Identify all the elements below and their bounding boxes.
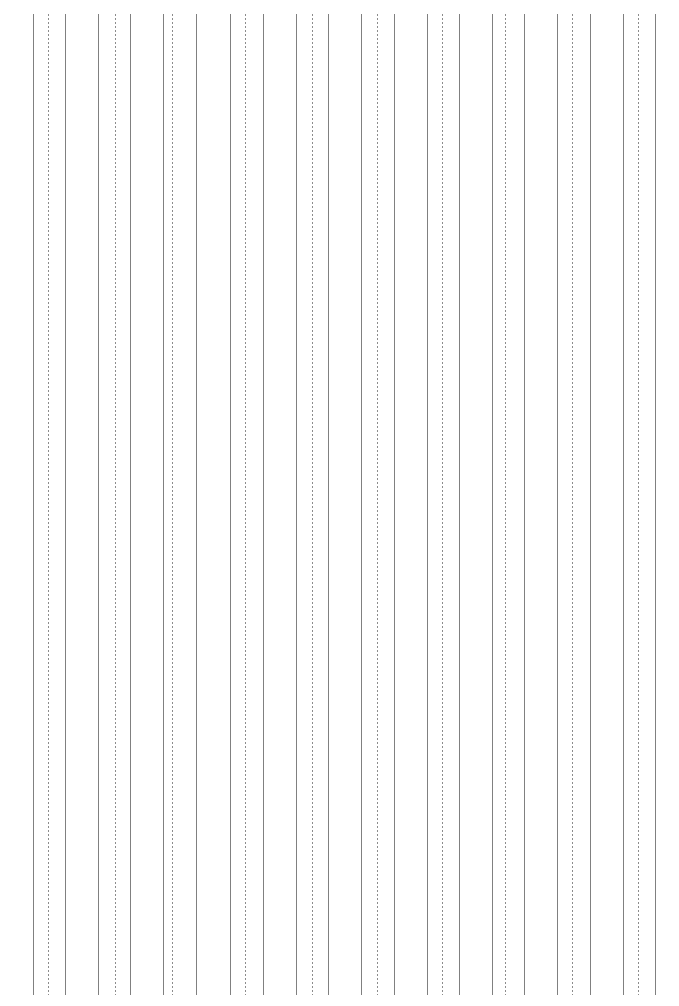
vertical-rule-solid-13 [296,14,297,995]
vertical-rule-dotted-29 [638,14,639,995]
page-canvas [0,0,679,1006]
vertical-rule-solid-6 [130,14,131,995]
vertical-rule-solid-9 [196,14,197,995]
vertical-rule-dotted-20 [442,14,443,995]
vertical-rule-solid-22 [492,14,493,995]
vertical-rule-solid-30 [655,14,656,995]
vertical-rule-dotted-23 [505,14,506,995]
vertical-rule-solid-12 [263,14,264,995]
vertical-rule-solid-21 [459,14,460,995]
vertical-rule-solid-16 [361,14,362,995]
vertical-rule-dotted-17 [377,14,378,995]
vertical-rule-dotted-8 [172,14,173,995]
vertical-rule-solid-4 [98,14,99,995]
vertical-rule-solid-3 [65,14,66,995]
vertical-rule-solid-10 [230,14,231,995]
vertical-rule-solid-19 [427,14,428,995]
vertical-rule-dotted-11 [245,14,246,995]
vertical-rule-dotted-5 [115,14,116,995]
vertical-rule-solid-1 [33,14,34,995]
vertical-rule-solid-27 [590,14,591,995]
vertical-rule-dotted-2 [48,14,49,995]
vertical-rule-solid-28 [623,14,624,995]
vertical-rule-solid-24 [524,14,525,995]
vertical-rule-solid-18 [394,14,395,995]
vertical-rule-solid-7 [163,14,164,995]
vertical-rule-dotted-26 [572,14,573,995]
vertical-rule-solid-15 [328,14,329,995]
vertical-rule-dotted-14 [312,14,313,995]
vertical-rule-solid-25 [557,14,558,995]
